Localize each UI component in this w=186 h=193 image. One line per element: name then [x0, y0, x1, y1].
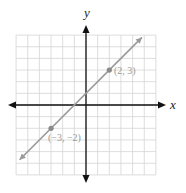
x-axis-label: x — [169, 97, 176, 112]
data-point — [48, 126, 53, 131]
data-point — [107, 67, 112, 72]
x-axis-right-arrow-icon — [158, 102, 166, 109]
coordinate-plane: y x (2, 3) (−3, −2) — [0, 0, 186, 193]
x-axis-left-arrow-icon — [8, 102, 16, 109]
y-axis-down-arrow-icon — [83, 175, 90, 183]
point-label-2-3: (2, 3) — [114, 65, 136, 77]
y-axis-label: y — [82, 5, 90, 20]
point-label-neg3-neg2: (−3, −2) — [48, 132, 81, 144]
y-axis-up-arrow-icon — [83, 25, 90, 33]
axes — [8, 25, 166, 183]
